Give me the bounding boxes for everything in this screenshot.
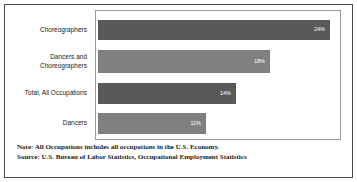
category-label-line: Choreographers bbox=[0, 26, 87, 35]
bar-choreographers: 24% bbox=[98, 20, 330, 40]
category-label: Dancers bbox=[0, 119, 93, 128]
chart-screenshot: Choreographers 24% Dancers and Choreogra… bbox=[0, 0, 357, 182]
bar-row: Dancers 11% bbox=[0, 113, 341, 134]
footnotes: Note: All Occupations includes all occup… bbox=[17, 143, 337, 162]
bar-row: Dancers and Choreographers 18% bbox=[0, 50, 341, 73]
bar-row: Total, All Occupations 14% bbox=[0, 83, 341, 104]
bar-track: 14% bbox=[93, 83, 341, 104]
bar-dancers-and-choreographers: 18% bbox=[98, 50, 270, 73]
category-label: Dancers and Choreographers bbox=[0, 53, 93, 70]
bar-track: 24% bbox=[93, 20, 341, 40]
category-label: Total, All Occupations bbox=[0, 89, 93, 98]
bar-total-all-occupations: 14% bbox=[98, 83, 236, 104]
category-label-line: Choreographers bbox=[0, 62, 87, 71]
bar-dancers: 11% bbox=[98, 113, 206, 134]
bar-value-label: 18% bbox=[254, 59, 270, 65]
bar-track: 18% bbox=[93, 50, 341, 73]
bar-row: Choreographers 24% bbox=[0, 20, 341, 40]
footnote-source: Source: U.S. Bureau of Labor Statistics,… bbox=[17, 153, 337, 163]
bar-value-label: 14% bbox=[220, 91, 236, 97]
bar-value-label: 11% bbox=[190, 121, 206, 127]
bar-track: 11% bbox=[93, 113, 341, 134]
category-label-line: Dancers and bbox=[0, 53, 87, 62]
category-label-line: Total, All Occupations bbox=[0, 89, 87, 98]
bar-value-label: 24% bbox=[314, 27, 330, 33]
category-label: Choreographers bbox=[0, 26, 93, 35]
footnote-note: Note: All Occupations includes all occup… bbox=[17, 143, 337, 153]
category-label-line: Dancers bbox=[0, 119, 87, 128]
bar-rows: Choreographers 24% Dancers and Choreogra… bbox=[0, 10, 341, 140]
